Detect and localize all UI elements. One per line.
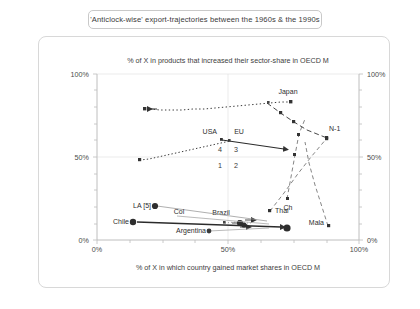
series-eu: EU <box>220 128 284 149</box>
argentina-marker <box>207 229 212 234</box>
left-tick-50: 50% <box>75 153 90 162</box>
series-argentina: Argentina <box>176 227 269 235</box>
axis-right <box>359 74 363 240</box>
label-col: Col <box>174 208 185 215</box>
label-mala: Mala <box>309 219 324 226</box>
scatter-plot-svg: 100% 50% 0% 100% 50% 0% 0% 50% 100% % of… <box>39 37 391 289</box>
label-chile: Chile <box>113 218 129 225</box>
brazil-marker <box>223 221 226 224</box>
bottom-axis-title: % of X in which country gained market sh… <box>136 263 320 272</box>
japan-marker-start <box>143 107 146 110</box>
series-japan: Japan <box>143 88 298 110</box>
chart-title-text: 'Anticlock-wise' export-trajectories bet… <box>90 15 319 24</box>
quadrant-label-2: 2 <box>234 161 238 170</box>
eu-marker-start <box>220 138 223 141</box>
right-tick-0: 0% <box>367 236 378 245</box>
quadrant-label-3: 3 <box>234 145 238 154</box>
ch-path <box>287 119 305 199</box>
chile-path <box>137 222 281 227</box>
chart-title-pill: 'Anticlock-wise' export-trajectories bet… <box>88 10 322 29</box>
japan-path <box>151 102 291 110</box>
chart-card: 100% 50% 0% 100% 50% 0% 0% 50% 100% % of… <box>38 36 390 288</box>
n1-marker-2 <box>292 120 295 123</box>
label-n1: N-1 <box>329 125 340 132</box>
plot-area: 100% 50% 0% 100% 50% 0% 0% 50% 100% % of… <box>39 37 389 287</box>
mala-marker-1 <box>327 224 330 227</box>
left-tick-100: 100% <box>71 70 90 79</box>
ch-marker-3 <box>297 133 300 136</box>
mala-path <box>305 142 328 226</box>
x-tick-50: 50% <box>221 245 236 254</box>
label-thai: Thai <box>275 207 289 214</box>
left-tick-0: 0% <box>79 236 90 245</box>
right-tick-100: 100% <box>367 70 386 79</box>
ch-marker-2 <box>293 153 296 156</box>
eu-path <box>222 140 284 149</box>
label-usa: USA <box>203 128 218 135</box>
thai-marker-2 <box>325 136 328 139</box>
n1-marker-1 <box>279 111 282 114</box>
axis-left <box>93 74 97 240</box>
thai-marker-1 <box>268 209 271 212</box>
series-ch: Ch <box>284 119 305 211</box>
label-eu: EU <box>234 128 244 135</box>
label-argentina: Argentina <box>176 227 206 235</box>
right-tick-50: 50% <box>367 153 382 162</box>
n1-path <box>267 103 327 138</box>
x-tick-100: 100% <box>350 245 369 254</box>
chile-end-marker <box>283 224 290 231</box>
usa-marker-start <box>138 158 141 161</box>
axis-bottom <box>97 240 359 244</box>
quadrant-label-1: 1 <box>218 161 222 170</box>
la5-marker <box>152 203 158 209</box>
top-axis-title: % of X in products that increased their … <box>127 56 329 65</box>
series-mala: Mala <box>305 142 330 227</box>
japan-marker-end <box>289 100 292 103</box>
label-japan: Japan <box>278 88 297 96</box>
screenshot-root: 'Anticlock-wise' export-trajectories bet… <box>0 0 420 309</box>
argentina-path <box>209 228 269 231</box>
x-tick-0: 0% <box>92 245 103 254</box>
chile-marker <box>130 219 136 225</box>
series-usa: USA <box>138 128 231 161</box>
label-la5: LA [5] <box>133 202 151 210</box>
thai-path <box>270 138 327 211</box>
quadrant-label-4: 4 <box>218 145 222 154</box>
ch-marker-1 <box>286 197 289 200</box>
